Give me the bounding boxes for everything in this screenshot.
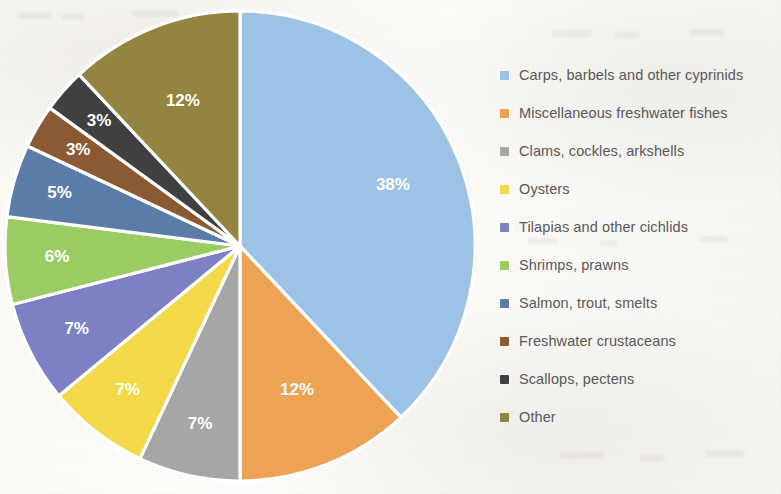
legend-color-swatch-icon	[500, 71, 509, 80]
legend-item[interactable]: Freshwater crustaceans	[500, 322, 778, 360]
legend-item-label: Scallops, pectens	[519, 371, 634, 387]
legend-item[interactable]: Carps, barbels and other cyprinids	[500, 56, 778, 94]
legend-item-label: Miscellaneous freshwater fishes	[519, 105, 728, 121]
legend-item[interactable]: Scallops, pectens	[500, 360, 778, 398]
legend-color-swatch-icon	[500, 413, 509, 422]
legend-item-label: Clams, cockles, arkshells	[519, 143, 684, 159]
legend-item-label: Freshwater crustaceans	[519, 333, 676, 349]
pie-chart-area: 38%12%7%7%7%6%5%3%3%12%	[0, 0, 490, 494]
legend-item-label: Shrimps, prawns	[519, 257, 628, 273]
pie-slice-data-label: 7%	[64, 319, 89, 338]
pie-slice-data-label: 3%	[87, 111, 112, 130]
pie-slice-data-label: 3%	[66, 140, 91, 159]
legend-item-label: Oysters	[519, 181, 570, 197]
legend-item-label: Carps, barbels and other cyprinids	[519, 67, 743, 83]
pie-slice-group	[5, 11, 475, 481]
pie-slice-data-label: 12%	[166, 91, 200, 110]
legend-item-label: Other	[519, 409, 556, 425]
legend-color-swatch-icon	[500, 147, 509, 156]
legend-item[interactable]: Miscellaneous freshwater fishes	[500, 94, 778, 132]
legend-item[interactable]: Clams, cockles, arkshells	[500, 132, 778, 170]
legend-item[interactable]: Salmon, trout, smelts	[500, 284, 778, 322]
legend-item-label: Salmon, trout, smelts	[519, 295, 657, 311]
pie-chart: 38%12%7%7%7%6%5%3%3%12%	[5, 0, 475, 494]
pie-slice-data-label: 38%	[376, 175, 410, 194]
pie-slice-data-label: 7%	[115, 380, 140, 399]
pie-slice-data-label: 12%	[280, 380, 314, 399]
legend-color-swatch-icon	[500, 299, 509, 308]
legend-item[interactable]: Tilapias and other cichlids	[500, 208, 778, 246]
legend-color-swatch-icon	[500, 337, 509, 346]
pie-slice-data-label: 7%	[188, 414, 213, 433]
legend-item[interactable]: Oysters	[500, 170, 778, 208]
legend-color-swatch-icon	[500, 261, 509, 270]
pie-slice-data-label: 5%	[47, 183, 72, 202]
legend-item[interactable]: Shrimps, prawns	[500, 246, 778, 284]
legend-color-swatch-icon	[500, 223, 509, 232]
legend-item-label: Tilapias and other cichlids	[519, 219, 688, 235]
pie-slice-data-label: 6%	[45, 247, 70, 266]
legend-color-swatch-icon	[500, 109, 509, 118]
chart-legend: Carps, barbels and other cyprinidsMiscel…	[500, 56, 778, 436]
legend-color-swatch-icon	[500, 185, 509, 194]
legend-item[interactable]: Other	[500, 398, 778, 436]
legend-color-swatch-icon	[500, 375, 509, 384]
